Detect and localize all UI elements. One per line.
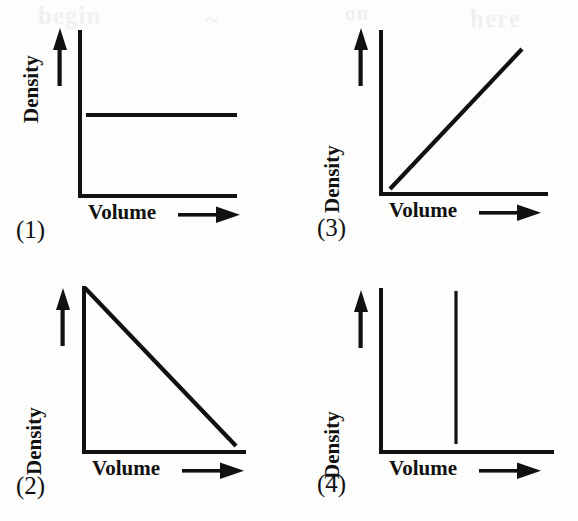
x-axis-label: Volume [389,198,457,223]
x-axis-label: Volume [88,200,156,225]
panel-3: Density Volume (3) [289,0,578,260]
panel-number-label: (3) [317,214,346,242]
x-axis-label: Volume [92,456,160,481]
panel-4: Density Volume (4) [289,260,578,521]
panel-number-label: (2) [16,472,45,500]
figure-page: begin ~ on here Density Volume (1) [0,0,578,521]
arrow-right-icon [178,206,240,224]
panel-1: Density Volume (1) [0,0,289,260]
panel-2: Density Volume (2) [0,260,289,521]
arrow-right-icon [182,462,244,480]
x-axis-label: Volume [389,456,457,481]
arrow-right-icon [479,204,541,222]
panel-number-label: (1) [16,216,45,244]
panel-number-label: (4) [317,470,346,498]
arrow-right-icon [479,462,541,480]
